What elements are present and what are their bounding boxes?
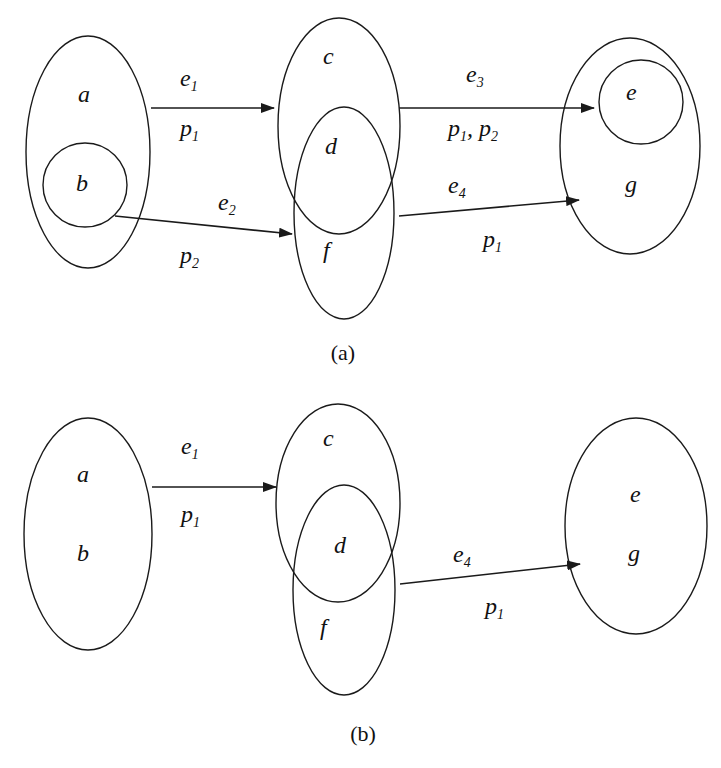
node-a-label: a	[78, 81, 90, 107]
node-b-label-b: b	[77, 540, 89, 566]
node-f-label: f	[323, 237, 333, 263]
panel-b: a b c d f e g e1 p1 e4 p1 (b)	[24, 404, 707, 746]
set-e-circle	[599, 60, 683, 144]
edge-e2-label: e2	[218, 189, 236, 218]
caption-a: (a)	[331, 340, 355, 365]
node-c-label-b: c	[323, 425, 334, 451]
node-d-label: d	[325, 133, 338, 159]
edge-e2-arrow	[115, 216, 292, 234]
set-eg-ellipse	[565, 418, 707, 634]
edge-e1-prop: p1	[178, 115, 199, 144]
edge-e4-arrow-b	[400, 564, 580, 584]
set-f-ellipse	[294, 107, 394, 319]
edge-e2-prop: p2	[178, 242, 199, 271]
edge-e3-prop: p1, p2	[446, 115, 498, 144]
set-a-ellipse	[26, 36, 150, 268]
node-e-label: e	[626, 79, 637, 105]
node-d-label-b: d	[334, 532, 347, 558]
node-e-label-b: e	[630, 481, 641, 507]
edge-e3-label: e3	[466, 61, 484, 90]
edge-e4-prop: p1	[481, 226, 502, 255]
edge-e1-label: e1	[180, 65, 198, 94]
node-a-label-b: a	[77, 461, 89, 487]
edge-e4-label-b: e4	[453, 541, 471, 570]
node-c-label: c	[323, 43, 334, 69]
edge-e4-arrow	[399, 200, 579, 216]
panel-a: a b c d f e g e1 p1 e2 p2 e3 p1, p2 e4 p…	[26, 18, 700, 365]
edge-e4-prop-b: p1	[483, 593, 504, 622]
edge-e1-label-b: e1	[181, 433, 199, 462]
set-c-ellipse	[278, 18, 400, 234]
set-c-ellipse-b	[276, 404, 400, 602]
edge-e4-label: e4	[448, 172, 466, 201]
node-f-label-b: f	[320, 614, 330, 640]
set-ab-ellipse	[24, 418, 152, 650]
edge-e1-prop-b: p1	[179, 501, 200, 530]
set-diagram: a b c d f e g e1 p1 e2 p2 e3 p1, p2 e4 p…	[0, 0, 721, 768]
node-b-label: b	[76, 170, 88, 196]
node-g-label-b: g	[628, 540, 640, 566]
caption-b: (b)	[350, 721, 376, 746]
set-g-ellipse	[560, 38, 700, 254]
node-g-label: g	[625, 171, 637, 197]
